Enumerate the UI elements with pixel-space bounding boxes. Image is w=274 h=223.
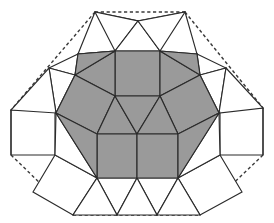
core-bottom-square-left xyxy=(97,134,137,178)
outer-square-right-mid xyxy=(220,108,263,155)
core-square-top xyxy=(115,51,160,96)
figure-root xyxy=(0,0,274,223)
tiling-diagram xyxy=(0,0,274,223)
outer-square-left-mid xyxy=(11,110,55,155)
core-bottom-square-right xyxy=(137,134,178,178)
